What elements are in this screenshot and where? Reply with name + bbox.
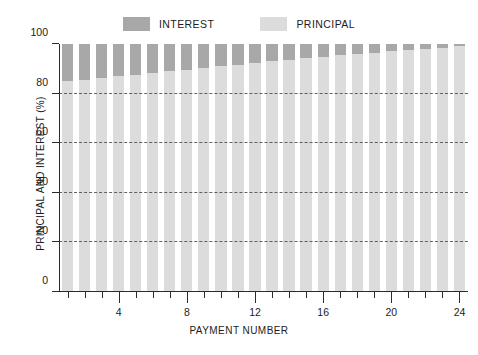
plot-area: 020406080100 4812162024 (59, 44, 468, 292)
bar-group-payment-11 (232, 44, 243, 292)
bar-segment-principal (283, 60, 294, 292)
y-tick-60 (52, 142, 59, 143)
bar-segment-interest (62, 44, 73, 81)
x-tick-21 (408, 292, 409, 298)
bar-group-payment-12 (249, 44, 260, 292)
bar-group-payment-8 (181, 44, 192, 292)
x-tick-label-4: 4 (116, 306, 122, 318)
bar-segment-principal (249, 63, 260, 292)
bar-segment-principal (386, 51, 397, 292)
bar-segment-interest (181, 44, 192, 70)
x-tick-7 (170, 292, 171, 298)
y-tick-label-0: 0 (42, 274, 48, 286)
bar-segment-interest (198, 44, 209, 68)
bar-segment-principal (369, 53, 380, 292)
bar-group-payment-18 (352, 44, 363, 292)
bar-group-payment-20 (386, 44, 397, 292)
bar-group-payment-15 (300, 44, 311, 292)
gridline-60 (59, 142, 468, 143)
legend-swatch-interest (123, 17, 150, 31)
gridline-20 (59, 241, 468, 242)
bar-segment-interest (283, 44, 294, 60)
bar-series-container (59, 44, 468, 292)
bar-group-payment-23 (437, 44, 448, 292)
x-tick-label-24: 24 (454, 306, 466, 318)
x-tick-label-12: 12 (249, 306, 261, 318)
bar-group-payment-13 (266, 44, 277, 292)
y-tick-40 (52, 192, 59, 193)
x-tick-10 (221, 292, 222, 298)
bar-segment-interest (113, 44, 124, 76)
chart-legend: INTEREST PRINCIPAL (0, 16, 478, 32)
gridline-40 (59, 192, 468, 193)
bar-segment-interest (300, 44, 311, 58)
bar-segment-interest (420, 44, 431, 49)
y-tick-label-20: 20 (36, 224, 48, 236)
bar-segment-principal (130, 75, 141, 292)
y-tick-20 (52, 241, 59, 242)
y-tick-100 (52, 43, 59, 44)
x-tick-1 (68, 292, 69, 298)
bar-segment-interest (318, 44, 329, 57)
legend-entry-principal: PRINCIPAL (260, 17, 355, 31)
bar-segment-interest (454, 44, 465, 46)
bar-segment-principal (352, 54, 363, 292)
x-tick-3 (102, 292, 103, 298)
x-tick-8 (187, 292, 188, 303)
x-tick-15 (306, 292, 307, 298)
x-tick-9 (204, 292, 205, 298)
y-tick-label-100: 100 (30, 26, 48, 38)
x-tick-11 (238, 292, 239, 298)
bar-segment-interest (352, 44, 363, 54)
bar-group-payment-7 (164, 44, 175, 292)
x-axis-title: PAYMENT NUMBER (0, 325, 478, 336)
y-tick-0 (52, 291, 59, 292)
y-tick-label-60: 60 (36, 125, 48, 137)
bar-segment-interest (403, 44, 414, 50)
bar-segment-interest (386, 44, 397, 51)
x-tick-12 (255, 292, 256, 303)
bar-group-payment-5 (130, 44, 141, 292)
x-tick-19 (374, 292, 375, 298)
bar-segment-interest (215, 44, 226, 66)
bar-segment-principal (198, 68, 209, 292)
bar-segment-principal (266, 61, 277, 292)
bar-group-payment-17 (335, 44, 346, 292)
bar-segment-principal (403, 50, 414, 292)
y-tick-label-80: 80 (36, 76, 48, 88)
bar-segment-principal (437, 48, 448, 292)
bar-segment-principal (79, 80, 90, 292)
bar-segment-interest (96, 44, 107, 78)
bar-segment-interest (249, 44, 260, 63)
stacked-bar-chart: INTEREST PRINCIPAL PRINCIPAL AND INTERES… (0, 0, 478, 355)
bar-segment-principal (147, 73, 158, 292)
legend-label-interest: INTEREST (159, 19, 215, 30)
x-tick-22 (425, 292, 426, 298)
x-tick-label-20: 20 (385, 306, 397, 318)
bar-group-payment-9 (198, 44, 209, 292)
bar-group-payment-14 (283, 44, 294, 292)
bar-segment-interest (164, 44, 175, 71)
x-tick-2 (85, 292, 86, 298)
bar-segment-principal (454, 46, 465, 292)
bar-segment-principal (232, 65, 243, 292)
y-tick-80 (52, 93, 59, 94)
bar-segment-interest (130, 44, 141, 75)
bar-segment-principal (181, 70, 192, 292)
bar-segment-principal (96, 78, 107, 292)
x-tick-label-8: 8 (184, 306, 190, 318)
bar-group-payment-4 (113, 44, 124, 292)
bar-segment-principal (335, 55, 346, 292)
bar-segment-principal (62, 81, 73, 292)
bar-segment-interest (232, 44, 243, 65)
bar-group-payment-1 (62, 44, 73, 292)
bar-group-payment-24 (454, 44, 465, 292)
bar-segment-interest (369, 44, 380, 53)
bar-group-payment-10 (215, 44, 226, 292)
y-tick-label-40: 40 (36, 175, 48, 187)
x-tick-4 (119, 292, 120, 303)
bar-segment-interest (437, 44, 448, 48)
x-tick-label-16: 16 (317, 306, 329, 318)
x-tick-18 (357, 292, 358, 298)
bar-group-payment-2 (79, 44, 90, 292)
